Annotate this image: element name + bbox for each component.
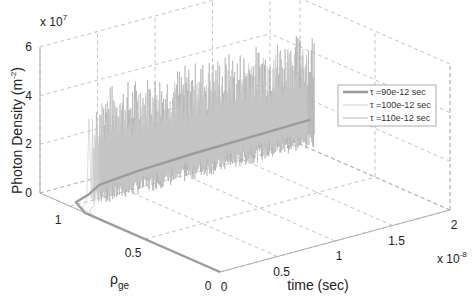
z-tick-label: 4: [25, 89, 32, 103]
x-tick-label: 1: [336, 249, 343, 263]
x-axis-label: time (sec): [287, 277, 348, 293]
z-axis-label: Photon Density (m-2): [9, 67, 25, 194]
legend: τ =90e-12 sec τ =100e-12 sec τ =110e-12 …: [338, 85, 436, 126]
data-traces: [76, 36, 315, 272]
z-tick-label: 6: [25, 40, 32, 54]
y-tick-label: 1: [55, 213, 62, 227]
x-tick-label: 0: [221, 280, 228, 294]
z-axis-exponent: x 107: [40, 13, 68, 29]
y-axis-label: ρge: [110, 271, 130, 291]
y-tick-label: 0: [205, 279, 212, 293]
chart-figure: 00.511.5200.510246 Photon Density (m-2) …: [0, 0, 472, 298]
legend-label: τ =110e-12 sec: [370, 113, 431, 123]
x-axis-exponent: x 10-8: [437, 250, 467, 266]
x-tick-label: 1.5: [388, 234, 405, 248]
y-tick-label: 0.5: [125, 246, 142, 260]
z-tick-label: 2: [25, 137, 32, 151]
legend-label: τ =90e-12 sec: [370, 87, 426, 97]
trace-tau-100: [82, 49, 307, 272]
z-tick-label: 0: [25, 186, 32, 200]
legend-label: τ =100e-12 sec: [370, 100, 431, 110]
x-tick-label: 2: [451, 218, 458, 232]
